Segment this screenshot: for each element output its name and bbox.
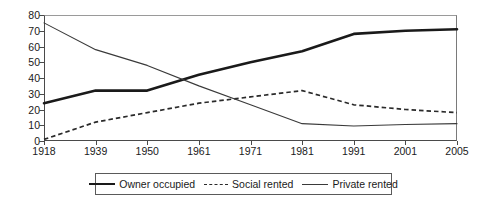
- x-tick-mark: [44, 141, 45, 145]
- dashed-line-icon: [204, 184, 228, 185]
- thick-solid-line-icon: [89, 183, 115, 185]
- series-line-social-rented: [44, 91, 457, 140]
- x-tick-mark: [457, 141, 458, 145]
- x-tick-mark: [199, 141, 200, 145]
- y-tick-label: 10: [4, 120, 40, 130]
- y-tick-label: 40: [4, 73, 40, 83]
- x-tick-mark: [96, 141, 97, 145]
- y-tick-label: 80: [4, 10, 40, 20]
- thin-solid-line-icon: [302, 184, 328, 185]
- x-tick-label: 1961: [187, 145, 210, 157]
- legend-item-label: Social rented: [232, 179, 293, 190]
- x-tick-label: 1991: [342, 145, 365, 157]
- x-axis: 191819391950196119711981199120012005: [44, 145, 457, 161]
- legend-item-label: Owner occupied: [119, 179, 195, 190]
- legend-item: Owner occupied: [89, 179, 195, 190]
- x-tick-mark: [302, 141, 303, 145]
- legend-item-label: Private rented: [332, 179, 397, 190]
- x-tick-label: 2001: [394, 145, 417, 157]
- y-tick-label: 60: [4, 42, 40, 52]
- legend-item: Social rented: [204, 179, 293, 190]
- x-tick-label: 1981: [290, 145, 313, 157]
- x-tick-label: 1939: [84, 145, 107, 157]
- series-line-owner-occupied: [44, 29, 457, 103]
- y-tick-label: 30: [4, 89, 40, 99]
- x-tick-mark: [147, 141, 148, 145]
- y-tick-label: 20: [4, 105, 40, 115]
- x-tick-label: 1918: [32, 145, 55, 157]
- x-tick-mark: [251, 141, 252, 145]
- x-tick-mark: [405, 141, 406, 145]
- legend-item: Private rented: [302, 179, 397, 190]
- plot-series-layer: [44, 15, 457, 141]
- y-tick-label: 70: [4, 26, 40, 36]
- x-tick-label: 1950: [136, 145, 159, 157]
- x-tick-label: 1971: [239, 145, 262, 157]
- x-tick-mark: [354, 141, 355, 145]
- x-tick-label: 2005: [445, 145, 468, 157]
- series-line-private-rented: [44, 23, 457, 126]
- y-tick-label: 50: [4, 57, 40, 67]
- y-axis: 80706050403020100: [0, 0, 40, 204]
- line-chart: 80706050403020100 1918193919501961197119…: [0, 0, 484, 204]
- chart-legend: Owner occupiedSocial rentedPrivate rente…: [95, 173, 392, 195]
